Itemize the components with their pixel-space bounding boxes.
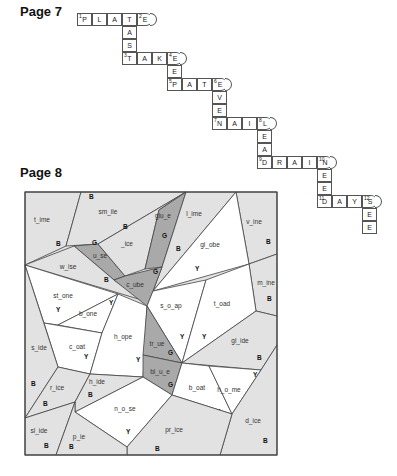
region-word: u_se: [93, 252, 107, 260]
color-letter: B: [267, 295, 272, 302]
region-word: sl_ide: [31, 427, 48, 435]
cell-letter: R: [277, 159, 282, 166]
region-word: n_o_se: [114, 405, 136, 413]
region-word: c_ube: [126, 281, 144, 289]
grid-cell: E: [362, 221, 377, 234]
cell-letter: E: [262, 133, 267, 140]
clue-number: 6: [214, 79, 217, 84]
region-cube: c_ubeG: [114, 267, 162, 306]
cell-letter: I: [309, 159, 311, 166]
grid-cell: T: [197, 78, 212, 91]
grid-cell: A: [122, 26, 137, 39]
color-letter: G: [92, 239, 97, 246]
page-8-label: Page 8: [20, 165, 62, 180]
color-letter: Y: [136, 356, 141, 363]
region-word: b_oat: [189, 384, 205, 392]
color-letter: B: [176, 245, 181, 252]
region-globe: gl_obeY: [153, 192, 249, 291]
color-letter: B: [263, 437, 268, 444]
grid-cell: 7N: [212, 117, 227, 130]
region-hide: h_ideB: [75, 374, 143, 412]
color-letter: G: [162, 232, 167, 239]
grid-cell: 2E: [137, 13, 152, 26]
region-word: tr_ue: [150, 340, 165, 348]
region-word: v_ine: [246, 218, 262, 226]
grid-cell: K: [152, 52, 167, 65]
cell-letter: A: [187, 81, 192, 88]
color-letter: B: [31, 380, 36, 387]
region-word: b_one: [79, 310, 97, 318]
region-soap: s_o_apY: [147, 280, 206, 363]
region-blue: bl_u_eG: [143, 355, 182, 395]
grid-cell: E: [257, 130, 272, 143]
region-glue: glu_eG: [145, 192, 186, 269]
region-ice: _iceB: [98, 192, 186, 276]
cell-letter: N: [322, 159, 327, 166]
grid-cell: E: [317, 169, 332, 182]
grid-cell: A: [182, 78, 197, 91]
grid-cell: I: [302, 156, 317, 169]
region-glide: gl_ideB: [182, 311, 277, 370]
clue-number: 8: [259, 118, 262, 123]
region-word: sm_ile: [99, 208, 118, 216]
region-word: pr_ice: [165, 426, 183, 434]
grid-cell: E: [362, 208, 377, 221]
color-letter: B: [123, 223, 128, 230]
color-letter: Y: [180, 333, 185, 340]
clue-number: 4: [169, 53, 172, 58]
cell-letter: E: [217, 107, 222, 114]
clue-number: 2: [139, 14, 142, 19]
color-letter: G: [168, 349, 173, 356]
region-side: s_ideB: [25, 265, 58, 418]
color-letter: B: [69, 443, 74, 450]
region-use: u_seG: [74, 239, 125, 280]
color-letter: Y: [253, 371, 258, 378]
cell-letter: A: [142, 55, 147, 62]
cell-letter: L: [98, 16, 102, 23]
cell-letter: E: [322, 185, 327, 192]
color-letter: B: [44, 442, 49, 449]
region-word: st_one: [53, 292, 73, 300]
cell-letter: E: [218, 81, 223, 88]
grid-cell: I: [242, 117, 257, 130]
color-letter: B: [266, 238, 271, 245]
cell-letter: A: [262, 146, 267, 153]
cell-letter: N: [217, 120, 222, 127]
grid-cell: Y: [347, 195, 362, 208]
cell-letter: D: [262, 159, 267, 166]
region-word: gl_obe: [200, 241, 220, 249]
region-word: r_ice: [50, 384, 64, 392]
region-time: t_imeB: [25, 192, 81, 265]
region-lime: l_imeB: [153, 192, 236, 291]
color-letter: B: [56, 240, 61, 247]
region-mine: m_ineB: [249, 254, 277, 316]
cell-letter: A: [292, 159, 297, 166]
grid-cell: L: [92, 13, 107, 26]
region-word: p_ie: [73, 433, 86, 441]
color-letter: B: [104, 276, 109, 283]
grid-cell: 5P: [167, 78, 182, 91]
grid-cell: 11D: [317, 195, 332, 208]
cell-letter: L: [263, 120, 267, 127]
grid-cell: 1P: [77, 13, 92, 26]
cell-letter: S: [127, 42, 132, 49]
region-word: t_oad: [214, 300, 231, 308]
region-toad: t_oadY: [182, 264, 256, 363]
cell-letter: Y: [352, 198, 357, 205]
region-word: gl_ide: [231, 337, 249, 345]
region-vine: v_ineB: [236, 192, 277, 264]
color-letter: B: [155, 445, 160, 452]
region-true: tr_ueG: [143, 306, 182, 363]
grid-cell: 10N: [317, 156, 332, 169]
cell-letter: V: [217, 94, 222, 101]
region-word: s_ide: [31, 344, 47, 352]
grid-cell: A: [227, 117, 242, 130]
region-word: s_o_ap: [160, 302, 182, 310]
grid-cell: R: [272, 156, 287, 169]
region-word: w_ise: [59, 263, 77, 271]
cell-letter: A: [232, 120, 237, 127]
grid-cell: 3T: [122, 52, 137, 65]
cell-letter: T: [202, 81, 206, 88]
region-rice: r_iceB: [25, 367, 90, 418]
page-7-label: Page 7: [20, 4, 62, 19]
